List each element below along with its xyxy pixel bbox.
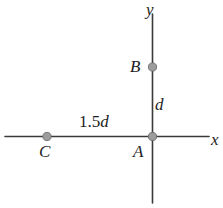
distance-label-ac-prefix: 1.5 — [79, 112, 100, 131]
axes-and-points-drawing — [0, 0, 223, 208]
distance-label-ac-unit: d — [100, 112, 109, 131]
distance-label-ac: 1.5d — [79, 113, 109, 130]
point-marker-c — [43, 132, 51, 140]
point-label-c: C — [39, 143, 50, 160]
point-marker-a — [148, 132, 156, 140]
physics-figure-coordinate-axes: y x B A C d 1.5d — [0, 0, 223, 208]
y-axis-label: y — [146, 1, 154, 18]
x-axis-label: x — [211, 131, 219, 148]
distance-label-ab: d — [155, 96, 164, 113]
point-marker-b — [148, 63, 156, 71]
point-label-b: B — [130, 58, 140, 75]
point-label-a: A — [133, 143, 143, 160]
